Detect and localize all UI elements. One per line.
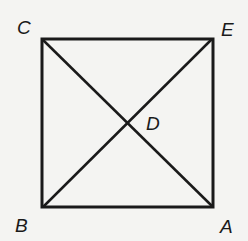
label-b: B xyxy=(15,215,28,236)
label-c: C xyxy=(17,17,31,38)
label-e: E xyxy=(221,19,234,40)
label-d: D xyxy=(146,113,160,134)
geometry-diagram: C E D B A xyxy=(0,0,248,241)
label-a: A xyxy=(219,216,233,237)
